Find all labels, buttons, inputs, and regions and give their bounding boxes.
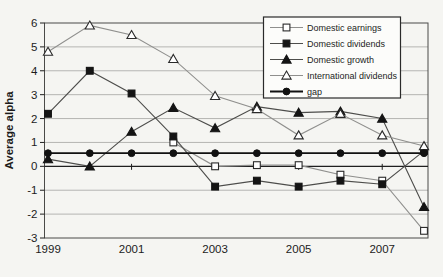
circle-filled-marker — [128, 150, 135, 157]
y-tick-label: -2 — [27, 208, 37, 220]
y-tick-label: 5 — [31, 41, 37, 53]
square-filled-marker — [212, 183, 219, 190]
legend-item-domestic-earnings: Domestic earnings — [270, 23, 382, 33]
y-tick-label: 4 — [31, 65, 38, 77]
circle-filled-marker — [45, 150, 52, 157]
triangle-filled-marker — [127, 127, 136, 135]
legend-item-domestic-growth: Domestic growth — [270, 55, 374, 65]
legend-label: gap — [307, 87, 322, 97]
circle-filled-marker — [170, 150, 177, 157]
series-line — [48, 107, 424, 207]
y-tick-label: 1 — [31, 136, 37, 148]
chart-figure: 6543210-1-2-319992001200320052007Average… — [0, 0, 443, 277]
square-filled-marker — [253, 177, 260, 184]
y-tick-label: 0 — [31, 160, 37, 172]
circle-filled-marker — [86, 150, 93, 157]
line-chart: 6543210-1-2-319992001200320052007Average… — [0, 0, 443, 277]
x-tick-label: 2003 — [202, 243, 228, 255]
triangle-open-marker — [85, 21, 94, 29]
legend-label: Domestic earnings — [307, 23, 382, 33]
y-axis-title: Average alpha — [3, 91, 15, 170]
triangle-open-marker — [294, 131, 303, 139]
y-tick-label: 2 — [31, 113, 37, 125]
legend-label: Domestic growth — [307, 55, 374, 65]
circle-filled-marker — [295, 150, 302, 157]
legend-item-domestic-dividends: Domestic dividends — [270, 39, 386, 49]
x-tick-label: 2005 — [286, 243, 312, 255]
square-filled-marker — [128, 90, 135, 97]
triangle-open-marker — [169, 54, 178, 62]
square-filled-marker — [86, 67, 93, 74]
circle-filled-marker — [337, 150, 344, 157]
x-tick-label: 1999 — [35, 243, 61, 255]
square-open-marker — [295, 162, 302, 169]
legend-label: Domestic dividends — [307, 39, 386, 49]
legend-square-filled-icon — [283, 40, 290, 47]
triangle-open-marker — [378, 131, 387, 139]
legend-square-open-icon — [283, 24, 290, 31]
square-filled-marker — [295, 183, 302, 190]
square-open-marker — [253, 162, 260, 169]
legend-label: International dividends — [307, 71, 398, 81]
triangle-filled-marker — [419, 203, 428, 211]
square-filled-marker — [170, 133, 177, 140]
square-open-marker — [212, 163, 219, 170]
y-tick-label: 6 — [31, 17, 37, 29]
circle-filled-marker — [253, 150, 260, 157]
square-filled-marker — [337, 177, 344, 184]
circle-filled-marker — [421, 150, 428, 157]
legend-circle-filled-icon — [283, 88, 290, 95]
triangle-filled-marker — [211, 124, 220, 132]
x-tick-label: 2001 — [119, 243, 145, 255]
square-filled-marker — [45, 110, 52, 117]
square-filled-marker — [379, 181, 386, 188]
y-tick-label: -1 — [27, 184, 37, 196]
circle-filled-marker — [212, 150, 219, 157]
legend: Domestic earningsDomestic dividendsDomes… — [264, 17, 401, 98]
x-tick-label: 2007 — [369, 243, 395, 255]
square-open-marker — [421, 227, 428, 234]
y-tick-label: 3 — [31, 89, 37, 101]
circle-filled-marker — [379, 150, 386, 157]
triangle-filled-marker — [169, 103, 178, 111]
